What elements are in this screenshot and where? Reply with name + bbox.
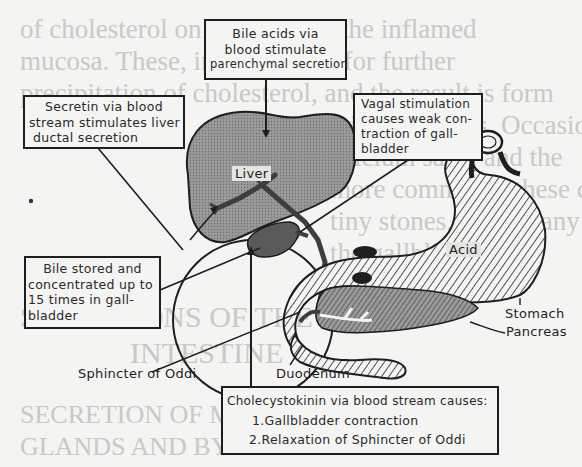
callout-line: Vagal stimulation bbox=[361, 97, 477, 112]
callout-line: parenchymal secretion bbox=[210, 57, 341, 73]
callout-cholecystokinin: Cholecystokinin via blood stream causes:… bbox=[221, 386, 499, 455]
label-sphincter-of-oddi: Sphincter of Oddi bbox=[78, 366, 196, 381]
callout-line: causes weak con- bbox=[361, 112, 477, 127]
leader-pancreas bbox=[470, 322, 505, 333]
callout-line: 15 times in gall- bbox=[28, 292, 157, 308]
callout-line: ductal secretion bbox=[29, 130, 179, 146]
callout-heading: Cholecystokinin via blood stream causes: bbox=[227, 392, 493, 411]
callout-item: 2.Relaxation of Sphincter of Oddi bbox=[227, 430, 493, 449]
leader-secretin bbox=[98, 148, 183, 250]
leader-bile-stored bbox=[160, 248, 260, 290]
label-liver: Liver bbox=[232, 166, 271, 181]
callout-line: bladder bbox=[28, 308, 157, 324]
callout-line: bladder bbox=[361, 142, 477, 157]
callout-line: traction of gall- bbox=[361, 127, 477, 142]
callout-secretin: Secretin via blood stream stimulates liv… bbox=[23, 95, 185, 149]
callout-item: 1.Gallbladder contraction bbox=[227, 411, 493, 430]
callout-line: Bile stored and bbox=[28, 261, 157, 277]
label-pancreas: Pancreas bbox=[506, 324, 567, 339]
stray-dot bbox=[29, 199, 33, 203]
callout-line: Bile acids via bbox=[210, 26, 341, 42]
callout-line: blood stimulate bbox=[210, 42, 341, 58]
callout-line: stream stimulates liver bbox=[29, 115, 179, 131]
label-duodenum: Duodenum bbox=[276, 366, 350, 381]
callout-line: Secretin via blood bbox=[29, 99, 179, 115]
callout-bile-acids: Bile acids via blood stimulate parenchym… bbox=[204, 19, 347, 80]
label-acid: Acid bbox=[446, 242, 481, 257]
label-stomach: Stomach bbox=[505, 306, 564, 321]
callout-line: concentrated up to bbox=[28, 277, 157, 293]
callout-vagal: Vagal stimulation causes weak con- tract… bbox=[353, 93, 483, 161]
callout-bile-stored: Bile stored and concentrated up to 15 ti… bbox=[24, 256, 161, 329]
leader-sphincter bbox=[152, 312, 300, 372]
